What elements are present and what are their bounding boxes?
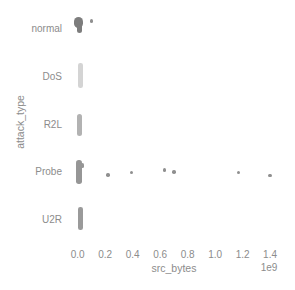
y-category-label: R2L xyxy=(12,119,62,131)
data-point xyxy=(106,173,110,177)
x-tick-label: 1.2 xyxy=(236,249,250,260)
strip-plot-figure: attack_type src_bytes 1e9 0.00.20.40.60.… xyxy=(0,0,295,290)
x-tick-label: 0.6 xyxy=(153,249,167,260)
data-point xyxy=(163,168,167,172)
x-tick-label: 0.4 xyxy=(126,249,140,260)
data-point xyxy=(172,170,176,174)
x-tick-label: 0.2 xyxy=(98,249,112,260)
data-point xyxy=(268,174,272,178)
data-point xyxy=(237,171,241,175)
x-tick-label: 0.0 xyxy=(71,249,85,260)
y-category-label: U2R xyxy=(12,214,62,226)
y-category-label: Probe xyxy=(12,166,62,178)
y-category-label: DoS xyxy=(12,71,62,83)
zero-cluster-points xyxy=(77,24,82,33)
x-tick-label: 1.4 xyxy=(263,249,277,260)
zero-cluster-points xyxy=(81,163,84,168)
x-axis-scale-offset-label: 1e9 xyxy=(261,262,278,273)
x-tick-label: 1.0 xyxy=(208,249,222,260)
zero-cluster-points xyxy=(78,207,83,230)
x-axis-title: src_bytes xyxy=(152,262,197,274)
data-point xyxy=(130,171,134,175)
zero-cluster-points xyxy=(78,63,83,88)
zero-cluster-points xyxy=(77,114,82,136)
data-point xyxy=(90,19,94,23)
y-category-label: normal xyxy=(12,23,62,35)
x-tick-label: 0.8 xyxy=(181,249,195,260)
